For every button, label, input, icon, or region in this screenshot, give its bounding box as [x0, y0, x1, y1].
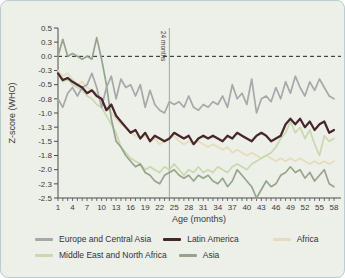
y-tick-label: -1.0	[38, 109, 52, 118]
x-tick-label: 7	[85, 203, 90, 212]
legend-label: Africa	[297, 233, 319, 246]
x-tick-label: 43	[257, 203, 266, 212]
y-tick-label: 0.3	[41, 38, 53, 47]
legend-row-2: Middle East and North AfricaAsia	[35, 249, 344, 262]
legend-item-asia: Asia	[179, 249, 220, 262]
legend-swatch	[35, 254, 53, 257]
chart-axes: 0.50.30.0-0.3-0.5-0.8-1.0-1.3-1.5-1.8-2.…	[38, 24, 341, 212]
x-tick-label: 13	[112, 203, 121, 212]
x-tick-label: 10	[97, 203, 106, 212]
x-tick-label: 55	[315, 203, 324, 212]
y-axis-title: Z-score (WHO)	[7, 83, 17, 144]
y-tick-label: -1.8	[38, 151, 52, 160]
x-tick-label: 28	[184, 203, 193, 212]
chart-legend: Europe and Central AsiaLatin AmericaAfri…	[1, 231, 344, 262]
y-tick-label: 0.0	[41, 52, 53, 61]
y-tick-label: 0.5	[41, 24, 53, 33]
x-tick-label: 46	[271, 203, 280, 212]
legend-label: Europe and Central Asia	[59, 233, 151, 246]
legend-swatch	[163, 238, 181, 241]
series-line-asia	[58, 38, 334, 198]
growth-chart: Z-score (WHO) Age (months) 24 months 0.5…	[1, 1, 345, 227]
chart-series-lines	[58, 38, 334, 198]
y-tick-label: -0.5	[38, 80, 52, 89]
legend-label: Middle East and North Africa	[59, 249, 167, 262]
series-line-europe-and-central-asia	[58, 73, 334, 113]
x-tick-label: 22	[155, 203, 164, 212]
x-axis-title: Age (months)	[172, 214, 226, 224]
chart-panel: Z-score (WHO) Age (months) 24 months 0.5…	[0, 0, 345, 278]
x-tick-label: 37	[228, 203, 237, 212]
x-tick-label: 52	[300, 203, 309, 212]
legend-swatch	[179, 254, 197, 257]
x-tick-label: 31	[199, 203, 208, 212]
x-tick-label: 49	[286, 203, 295, 212]
y-tick-label: -1.3	[38, 123, 52, 132]
y-tick-label: -1.5	[38, 137, 52, 146]
x-tick-label: 16	[126, 203, 135, 212]
x-tick-label: 19	[141, 203, 150, 212]
legend-item-africa: Africa	[273, 233, 319, 246]
legend-item-latin-america: Latin America	[163, 233, 239, 246]
legend-swatch	[35, 238, 53, 241]
legend-swatch	[273, 238, 291, 241]
x-tick-label: 1	[56, 203, 61, 212]
vline-24-months-label: 24 months	[160, 31, 167, 62]
legend-label: Latin America	[187, 233, 239, 246]
x-tick-label: 34	[213, 203, 222, 212]
x-tick-label: 25	[170, 203, 179, 212]
y-tick-label: -2.5	[38, 194, 52, 203]
x-tick-label: 4	[70, 203, 75, 212]
legend-row-1: Europe and Central AsiaLatin AmericaAfri…	[35, 233, 344, 246]
x-tick-label: 58	[330, 203, 339, 212]
y-tick-label: -0.8	[38, 95, 52, 104]
x-tick-label: 40	[242, 203, 251, 212]
legend-item-middle-east-and-north-africa: Middle East and North Africa	[35, 249, 167, 262]
y-tick-label: -0.3	[38, 66, 52, 75]
legend-item-europe-and-central-asia: Europe and Central Asia	[35, 233, 151, 246]
y-tick-label: -2.0	[38, 165, 52, 174]
legend-label: Asia	[203, 249, 220, 262]
y-tick-label: -2.3	[38, 180, 52, 189]
